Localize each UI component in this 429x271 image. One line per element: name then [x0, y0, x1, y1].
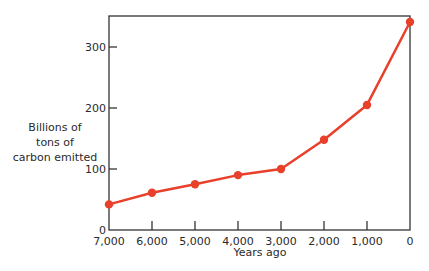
x-axis-ticks: 7,0006,0005,0004,0003,0002,0001,0000	[93, 221, 413, 248]
x-tick-label: 0	[407, 235, 414, 248]
data-point-marker	[320, 136, 328, 144]
x-tick-label: 2,000	[308, 235, 340, 248]
data-point-marker	[277, 165, 285, 173]
data-series	[105, 18, 414, 209]
y-tick-label: 300	[85, 41, 106, 54]
plot-frame	[109, 16, 410, 230]
data-point-marker	[406, 18, 414, 26]
y-tick-label: 200	[85, 102, 106, 115]
data-point-marker	[234, 171, 242, 179]
y-axis-label: Billions of tons of carbon emitted	[0, 120, 110, 165]
x-tick-label: 6,000	[136, 235, 168, 248]
data-point-marker	[363, 101, 371, 109]
x-tick-label: 7,000	[93, 235, 125, 248]
y-axis-label-line: tons of	[0, 135, 110, 150]
plot-border	[109, 16, 410, 230]
y-axis-label-line: carbon emitted	[0, 150, 110, 165]
x-tick-label: 1,000	[351, 235, 383, 248]
y-axis-label-line: Billions of	[0, 120, 110, 135]
data-point-marker	[105, 200, 113, 208]
x-axis-label: Years ago	[233, 246, 287, 259]
x-tick-label: 5,000	[179, 235, 211, 248]
series-line	[109, 22, 410, 204]
data-point-marker	[191, 180, 199, 188]
data-point-marker	[148, 189, 156, 197]
